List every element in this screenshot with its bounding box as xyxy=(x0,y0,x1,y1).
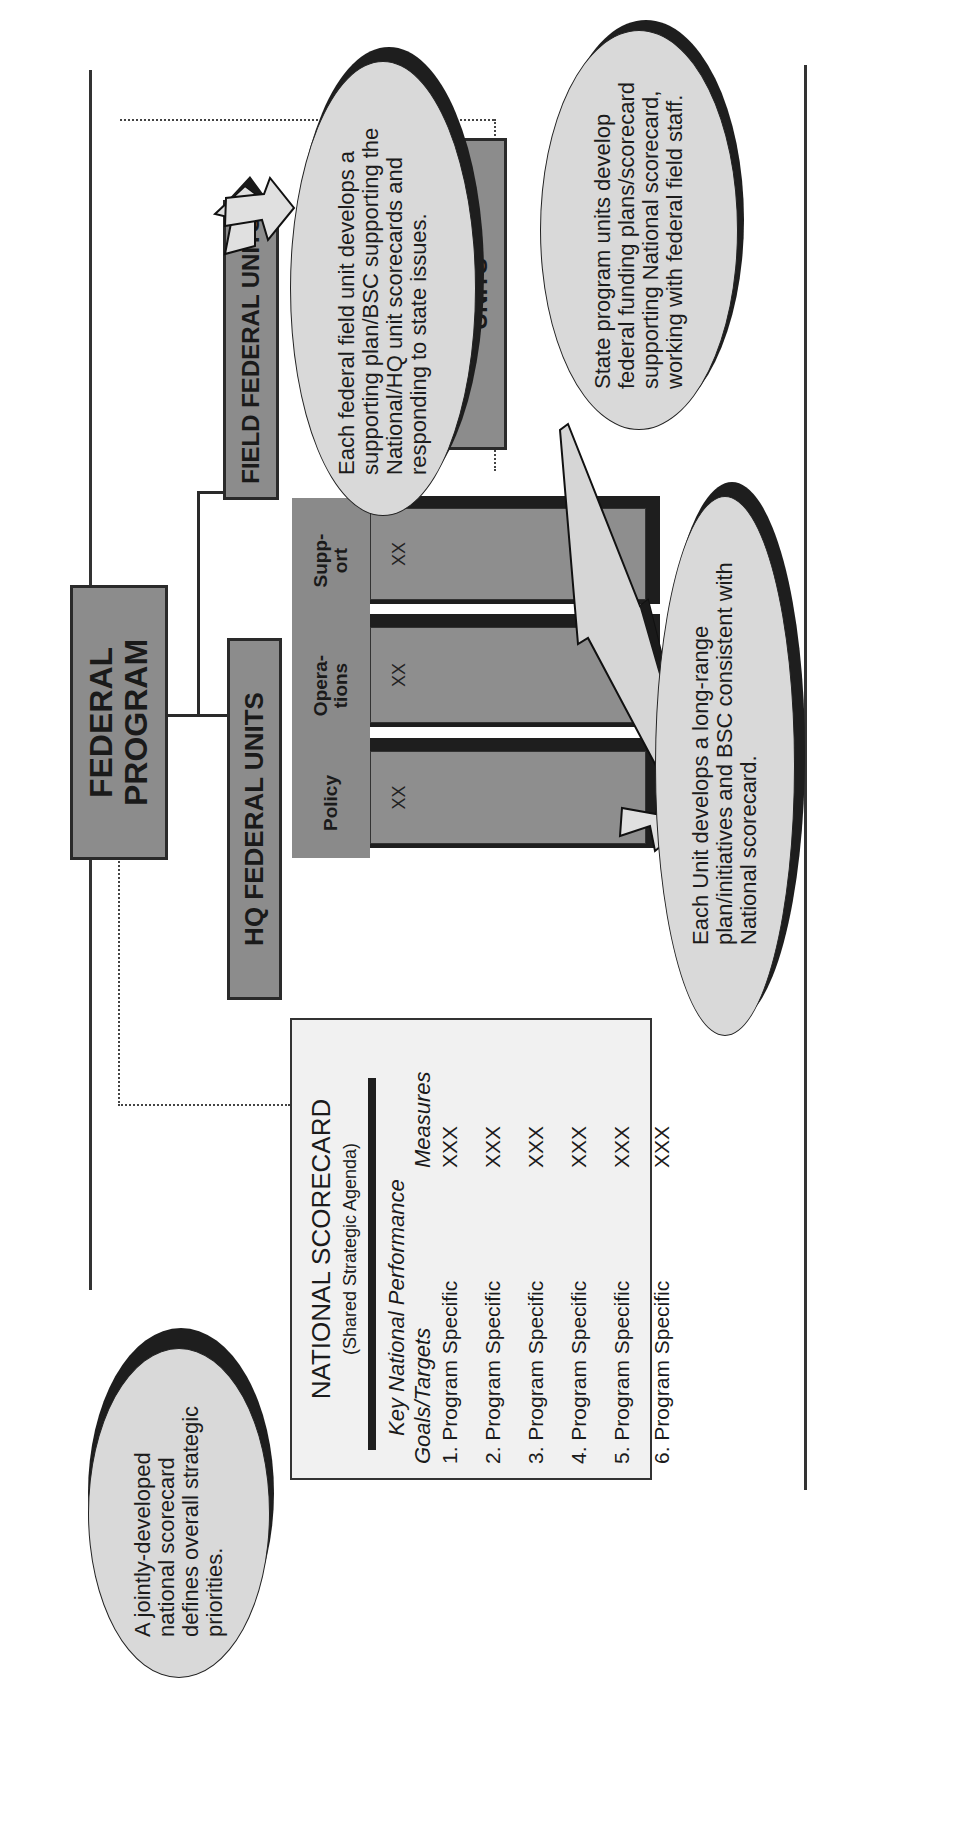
col-header-line1: Supp- xyxy=(311,534,331,588)
scorecard-row-measure: XXX xyxy=(650,1126,674,1168)
callout-unit-bubble: Each Unit develops a long-range plan/ini… xyxy=(655,496,795,1036)
field-federal-units-box: FIELD FEDERAL UNITS xyxy=(223,200,279,500)
callout-national-bubble: A jointly-developed national scorecard d… xyxy=(88,1348,270,1678)
connector-field-drop xyxy=(197,491,225,494)
hq-col-header-operations: Opera- tions xyxy=(292,623,370,748)
hq-col-header-policy: Policy xyxy=(292,748,370,858)
field-federal-units-label: FIELD FEDERAL UNITS xyxy=(237,216,265,484)
col-header-line2: tions xyxy=(331,663,351,708)
hq-col-inner-support: XX xyxy=(370,508,646,600)
scorecard-header-left-2: Goals/Targets xyxy=(410,1328,436,1464)
col-value: XX xyxy=(389,786,645,810)
diagram-canvas: FEDERAL PROGRAM HQ FEDERAL UNITS FIELD F… xyxy=(0,0,963,1826)
scorecard-row-goal: 2. Program Specific xyxy=(481,1281,505,1464)
scorecard-subtitle: (Shared Strategic Agenda) xyxy=(340,1020,361,1478)
federal-program-box: FEDERAL PROGRAM xyxy=(70,585,168,860)
col-header-line1: Opera- xyxy=(311,655,331,716)
federal-program-line2: PROGRAM xyxy=(119,639,154,806)
scorecard-row-goal: 5. Program Specific xyxy=(610,1281,634,1464)
hq-col-inner-operations: XX xyxy=(370,627,646,723)
callout-field: Each federal field unit develops a suppo… xyxy=(290,36,485,516)
hq-federal-units-box: HQ FEDERAL UNITS xyxy=(227,638,282,1000)
callout-unit: Each Unit develops a long-range plan/ini… xyxy=(655,476,805,1036)
scorecard-row-goal: 3. Program Specific xyxy=(524,1281,548,1464)
scorecard-divider xyxy=(368,1078,376,1450)
scorecard-row-measure: XXX xyxy=(438,1126,462,1168)
scorecard-row-goal: 6. Program Specific xyxy=(650,1281,674,1464)
scorecard-row-measure: XXX xyxy=(481,1126,505,1168)
scorecard-header-right: Measures xyxy=(410,1071,436,1168)
callout-national: A jointly-developed national scorecard d… xyxy=(88,1318,278,1678)
scorecard-row-measure: XXX xyxy=(524,1126,548,1168)
callout-national-text: A jointly-developed national scorecard d… xyxy=(131,1389,228,1637)
col-header-line2: ort xyxy=(331,548,351,573)
scorecard-row-measure: XXX xyxy=(610,1126,634,1168)
scorecard-title: NATIONAL SCORECARD xyxy=(306,1020,337,1478)
dotted-fp-scorecard-a xyxy=(118,858,120,1106)
dotted-fp-scorecard-b xyxy=(118,1104,290,1106)
callout-state-text: State program units develop federal fund… xyxy=(591,71,688,389)
scorecard-row-goal: 1. Program Specific xyxy=(438,1281,462,1464)
col-value: XX xyxy=(389,542,645,566)
scorecard-header-left-1: Key National Performance xyxy=(384,1179,410,1436)
callout-field-text: Each federal field unit develops a suppo… xyxy=(335,102,432,475)
federal-program-line1: FEDERAL xyxy=(84,647,119,798)
connector-bus xyxy=(197,492,200,717)
callout-unit-text: Each Unit develops a long-range plan/ini… xyxy=(689,537,762,945)
callout-state: State program units develop federal fund… xyxy=(540,10,745,430)
callout-field-bubble: Each federal field unit develops a suppo… xyxy=(290,61,476,516)
col-value: XX xyxy=(389,663,645,687)
scorecard-row-measure: XXX xyxy=(567,1126,591,1168)
hq-col-header-support: Supp- ort xyxy=(292,498,370,623)
national-scorecard: NATIONAL SCORECARD (Shared Strategic Age… xyxy=(290,1018,652,1480)
hq-federal-units-label: HQ FEDERAL UNITS xyxy=(239,692,270,946)
col-header-line1: Policy xyxy=(321,775,341,831)
scorecard-row-goal: 4. Program Specific xyxy=(567,1281,591,1464)
hq-col-inner-policy: XX xyxy=(370,751,646,844)
callout-state-bubble: State program units develop federal fund… xyxy=(540,30,738,430)
